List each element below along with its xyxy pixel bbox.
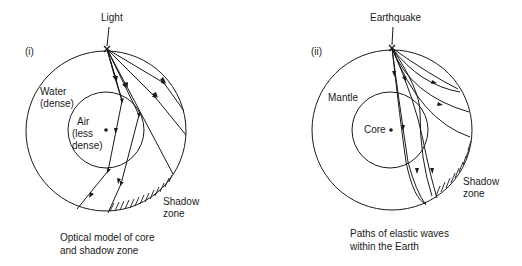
water-dense-label: (dense) bbox=[40, 98, 74, 110]
shadow-zone-label-ii: Shadow bbox=[463, 176, 499, 188]
panel-i-label: (i) bbox=[25, 46, 34, 58]
panel-i-diagram bbox=[26, 27, 186, 213]
panel-ii-label: (ii) bbox=[311, 46, 322, 58]
air-less-label: (less bbox=[72, 128, 93, 140]
air-dense-label: dense) bbox=[72, 140, 103, 152]
shadow-zone-label-ii-2: zone bbox=[463, 188, 485, 200]
earthquake-label: Earthquake bbox=[370, 12, 421, 24]
wave-arrowheads bbox=[392, 71, 443, 174]
caption-ii-line2: within the Earth bbox=[350, 240, 419, 253]
air-label: Air bbox=[77, 116, 89, 128]
core-label: Core bbox=[364, 124, 386, 136]
earthquake-source-pointer bbox=[392, 27, 393, 45]
mantle-label: Mantle bbox=[328, 92, 358, 104]
caption-i-line2: and shadow zone bbox=[60, 244, 138, 257]
water-label: Water bbox=[40, 86, 66, 98]
shadow-zone-label-i-2: zone bbox=[163, 208, 185, 220]
panel-ii-diagram bbox=[312, 27, 472, 210]
caption-i-line1: Optical model of core bbox=[60, 231, 155, 244]
light-rays bbox=[77, 49, 186, 213]
caption-ii-line1: Paths of elastic waves bbox=[350, 227, 449, 240]
center-dot bbox=[389, 128, 393, 132]
shadow-zone-label-i: Shadow bbox=[163, 196, 199, 208]
light-source-pointer bbox=[107, 27, 109, 46]
center-dot bbox=[104, 128, 108, 132]
light-label: Light bbox=[101, 12, 123, 24]
